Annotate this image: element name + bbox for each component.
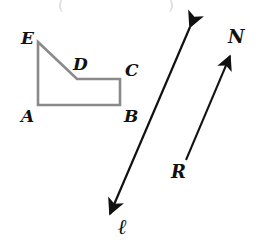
line-l xyxy=(110,27,190,214)
ray-rn xyxy=(186,56,230,160)
line-label-l: ℓ xyxy=(118,216,127,237)
top-crop-artifact-right: ) xyxy=(168,0,174,13)
vertex-label-b: B xyxy=(124,108,138,125)
geometry-figure-canvas: E D C B A ℓ R N ( ) xyxy=(0,0,260,244)
top-crop-artifact-left: ( xyxy=(58,0,64,13)
vertex-label-a: A xyxy=(21,108,34,125)
vertex-label-e: E xyxy=(21,30,34,47)
vertex-label-c: C xyxy=(125,62,139,79)
vertex-label-d: D xyxy=(73,56,88,73)
point-label-r: R xyxy=(171,163,186,181)
point-label-n: N xyxy=(228,28,244,46)
